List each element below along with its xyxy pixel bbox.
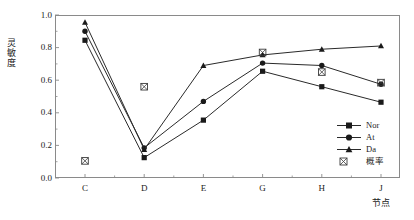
legend-item-da[interactable]: Da xyxy=(336,144,402,155)
legend-label-at: At xyxy=(362,133,375,142)
data-point-marker xyxy=(142,155,147,160)
data-point-marker xyxy=(319,84,324,89)
crossed-square-icon xyxy=(336,156,362,167)
data-point-marker xyxy=(319,63,324,68)
legend-label-nor: Nor xyxy=(362,121,379,130)
legend-item-probability[interactable]: 概率 xyxy=(336,156,402,167)
data-point-marker xyxy=(82,19,88,25)
data-point-marker xyxy=(260,60,265,65)
data-point-marker xyxy=(201,99,206,104)
square-line-icon xyxy=(336,120,362,131)
legend-item-at[interactable]: At xyxy=(336,132,402,143)
data-point-marker xyxy=(82,38,87,43)
data-point-marker xyxy=(260,69,265,74)
data-point-marker xyxy=(378,100,383,105)
chart-legend: Nor At Da xyxy=(336,120,402,168)
data-point-marker xyxy=(82,29,87,34)
sensitivity-line-chart: 灵 敏 度 0.00.20.40.60.81.0 CDEGHJ 节点 Nor xyxy=(0,0,414,220)
triangle-line-icon xyxy=(336,144,362,155)
data-point-marker xyxy=(201,118,206,123)
plot-canvas xyxy=(0,0,414,220)
circle-line-icon xyxy=(336,132,362,143)
legend-label-da: Da xyxy=(362,145,376,154)
legend-item-nor[interactable]: Nor xyxy=(336,120,402,131)
legend-label-probability: 概率 xyxy=(362,157,384,166)
